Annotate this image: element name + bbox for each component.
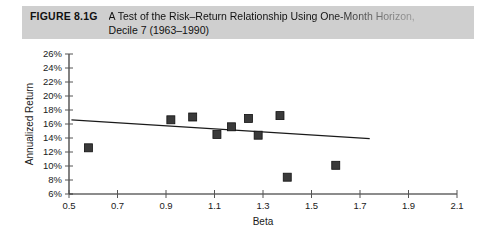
x-axis-title: Beta [253, 216, 274, 227]
y-tick-label: 16% [43, 118, 63, 129]
data-point-marker [227, 123, 235, 131]
data-point-marker [283, 173, 291, 181]
y-tick-label: 12% [43, 146, 63, 157]
y-axis-title: Annualized Return [24, 83, 35, 165]
x-tick-label: 1.3 [256, 200, 269, 211]
data-point-marker [167, 116, 175, 124]
data-point-marker [254, 131, 262, 139]
data-point-marker [213, 131, 221, 139]
data-point-marker [84, 144, 92, 152]
y-tick-label: 24% [43, 62, 63, 73]
x-tick-label: 2.1 [450, 200, 463, 211]
y-tick-label: 18% [43, 104, 63, 115]
data-points [84, 112, 339, 182]
x-tick-label: 1.7 [353, 200, 366, 211]
x-tick-label: 0.5 [62, 200, 75, 211]
y-tick-label: 14% [43, 132, 63, 143]
y-tick-label: 10% [43, 160, 63, 171]
y-tick-label: 22% [43, 76, 63, 87]
y-tick-label: 6% [48, 188, 62, 199]
y-tick-label: 8% [48, 174, 62, 185]
y-axis: 6%8%10%12%14%16%18%20%22%24%26% [43, 48, 73, 199]
x-tick-label: 0.7 [111, 200, 124, 211]
y-tick-label: 20% [43, 90, 63, 101]
x-tick-label: 1.1 [208, 200, 221, 211]
chart-canvas: 6%8%10%12%14%16%18%20%22%24%26% 0.50.70.… [0, 0, 495, 237]
data-point-marker [332, 161, 340, 169]
data-point-marker [189, 113, 197, 121]
data-point-marker [276, 112, 284, 120]
x-tick-label: 1.5 [305, 200, 318, 211]
x-axis: 0.50.70.91.11.31.51.71.92.1 [62, 190, 463, 211]
x-tick-label: 1.9 [402, 200, 415, 211]
data-point-marker [244, 114, 252, 122]
scatter-chart: 6%8%10%12%14%16%18%20%22%24%26% 0.50.70.… [0, 0, 495, 237]
y-tick-label: 26% [43, 48, 63, 59]
x-tick-label: 0.9 [159, 200, 172, 211]
